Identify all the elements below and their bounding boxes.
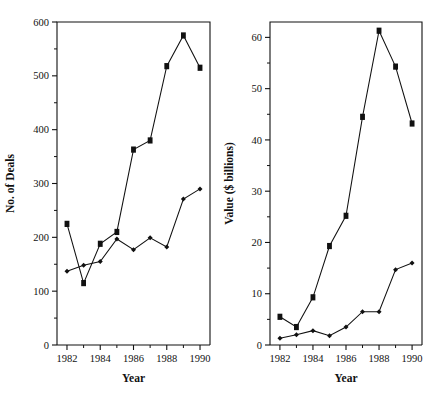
data-point-square — [377, 28, 382, 34]
y-tick-label: 300 — [33, 178, 49, 189]
plot-frame — [57, 22, 210, 345]
x-tick-label: 1986 — [123, 353, 144, 364]
x-tick-label: 1990 — [402, 353, 423, 364]
data-point-square — [65, 221, 70, 227]
data-point-square — [294, 324, 299, 330]
data-point-square — [393, 64, 398, 70]
deals-chart-svg: 010020030040050060019821984198619881990Y… — [0, 0, 222, 410]
data-point-diamond — [393, 267, 398, 272]
x-tick-label: 1988 — [369, 353, 390, 364]
data-point-square — [148, 137, 153, 143]
data-point-diamond — [327, 333, 332, 338]
data-point-diamond — [277, 336, 282, 341]
data-point-square — [114, 229, 119, 235]
y-tick-label: 200 — [33, 232, 49, 243]
data-point-square — [410, 120, 415, 126]
y-tick-label: 400 — [33, 124, 49, 135]
data-point-square — [98, 241, 103, 247]
data-point-square — [360, 114, 365, 120]
series-line-square — [67, 35, 200, 283]
data-point-diamond — [64, 269, 69, 274]
y-tick-label: 50 — [252, 83, 263, 94]
y-tick-label: 60 — [252, 32, 263, 43]
figure-container: 010020030040050060019821984198619881990Y… — [0, 0, 445, 410]
data-point-square — [327, 243, 332, 249]
x-tick-label: 1982 — [56, 353, 77, 364]
data-point-square — [277, 314, 282, 320]
x-tick-label: 1984 — [90, 353, 112, 364]
series-line-square — [280, 31, 412, 327]
y-axis-title: No. of Deals — [4, 153, 16, 213]
x-tick-label: 1984 — [302, 353, 324, 364]
data-point-square — [131, 146, 136, 152]
x-tick-label: 1986 — [336, 353, 357, 364]
x-tick-label: 1990 — [190, 353, 211, 364]
data-point-square — [164, 63, 169, 69]
value-chart-svg: 010203040506019821984198619881990YearVal… — [222, 0, 445, 410]
y-axis-title: Value ($ billions) — [223, 142, 236, 225]
data-point-diamond — [81, 263, 86, 268]
x-axis-title: Year — [335, 372, 358, 384]
x-axis-title: Year — [122, 372, 145, 384]
data-point-diamond — [164, 245, 169, 250]
data-point-diamond — [377, 309, 382, 314]
y-tick-label: 0 — [44, 340, 49, 351]
y-tick-label: 600 — [33, 17, 49, 28]
y-tick-label: 40 — [252, 135, 263, 146]
data-point-square — [181, 32, 186, 38]
data-point-square — [81, 280, 86, 286]
x-tick-label: 1982 — [269, 353, 290, 364]
data-point-square — [198, 65, 203, 71]
chart-panel-deals: 010020030040050060019821984198619881990Y… — [0, 0, 222, 410]
data-point-diamond — [310, 328, 315, 333]
x-tick-label: 1988 — [156, 353, 177, 364]
data-point-square — [311, 294, 316, 300]
y-tick-label: 0 — [257, 340, 262, 351]
plot-frame — [270, 22, 422, 345]
chart-panel-value: 010203040506019821984198619881990YearVal… — [222, 0, 444, 410]
y-tick-label: 10 — [252, 288, 263, 299]
y-tick-label: 500 — [33, 70, 49, 81]
y-tick-label: 30 — [252, 186, 263, 197]
data-point-diamond — [181, 197, 186, 202]
series-line-diamond — [67, 189, 200, 271]
data-point-diamond — [198, 186, 203, 191]
data-point-diamond — [410, 260, 415, 265]
y-tick-label: 100 — [33, 286, 49, 297]
data-point-diamond — [294, 332, 299, 337]
data-point-square — [344, 213, 349, 219]
y-tick-label: 20 — [252, 237, 263, 248]
